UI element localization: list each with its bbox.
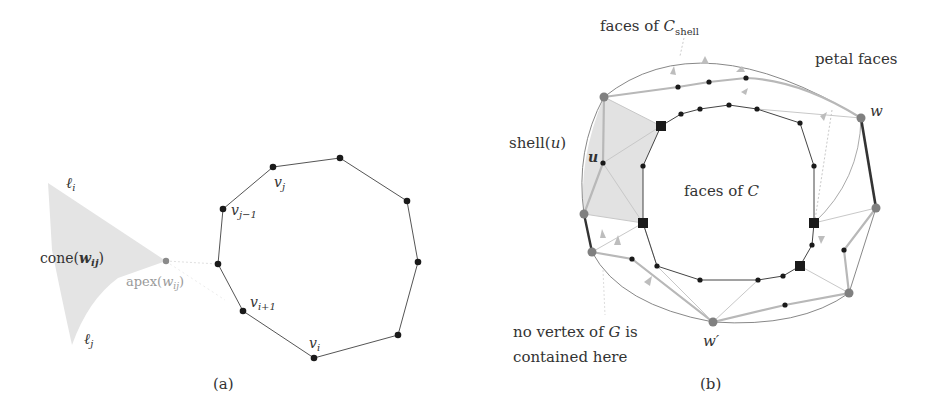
label-faces-of-c-shell: faces of Cshell — [600, 17, 699, 37]
label-petal-faces: petal faces — [815, 50, 898, 68]
outer-arc-top — [604, 63, 861, 118]
outer-arc-bottom-left — [592, 252, 713, 322]
c-shell-path-bottom — [592, 208, 876, 322]
label-faces-of-c: faces of C — [684, 182, 760, 200]
petal-arc — [814, 118, 861, 223]
panel-a: ℓi cone(wij) apex(wij) ℓj vj vj−1 vi+1 v… — [40, 155, 421, 393]
thick-edge-w — [861, 118, 876, 208]
thick-edge-left — [584, 214, 592, 252]
caption-b: (b) — [700, 375, 721, 393]
caption-a: (a) — [213, 375, 234, 393]
label-v-i: vi — [309, 335, 320, 353]
label-shell-u: shell(u) — [509, 134, 566, 152]
pointer-c-shell — [680, 38, 684, 56]
panel-b: faces of Cshell petal faces shell(u) u f… — [509, 17, 898, 393]
label-v-j: vj — [274, 174, 285, 192]
c-shell-path-top — [604, 78, 861, 118]
polygon-vertices — [215, 155, 422, 362]
apex-guide-line — [166, 261, 218, 264]
apex-node — [163, 258, 169, 264]
label-v-j-minus-1: vj−1 — [231, 202, 257, 220]
label-no-vertex-line1: no vertex of G is — [513, 323, 638, 341]
label-v-i-plus-1: vi+1 — [250, 294, 276, 312]
outer-arc-right — [849, 208, 876, 293]
label-l-j: ℓj — [84, 330, 93, 349]
label-no-vertex-line2: contained here — [513, 348, 627, 366]
label-w: w — [870, 102, 883, 120]
label-l-i: ℓi — [66, 174, 75, 193]
label-u: u — [588, 149, 598, 165]
figure-canvas: ℓi cone(wij) apex(wij) ℓj vj vj−1 vi+1 v… — [0, 0, 943, 419]
label-apex: apex(wij) — [126, 274, 184, 291]
polygon-outline — [218, 158, 418, 358]
label-w-prime: w′ — [703, 332, 720, 350]
